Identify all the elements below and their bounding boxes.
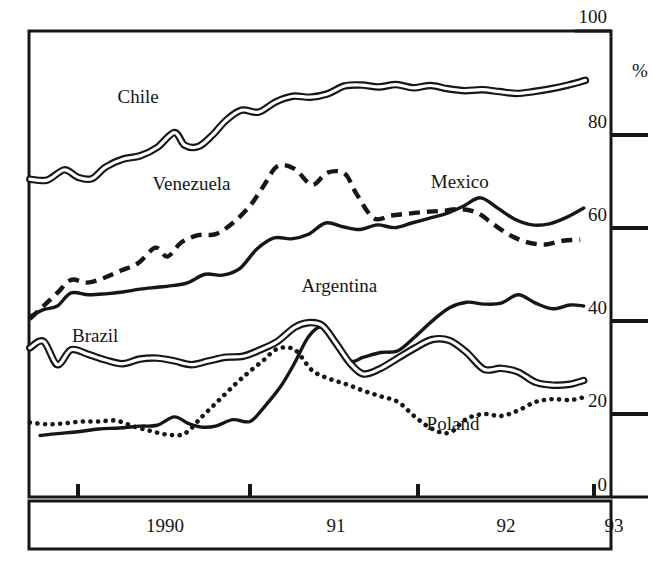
series-label-argentina: Argentina	[302, 275, 378, 296]
y-axis-label-60: 60	[588, 204, 607, 225]
y-axis-label-100: 100	[579, 6, 608, 27]
y-axis-label-20: 20	[588, 390, 607, 411]
line-chart-figure: 100 % 80 60 40 20 0 1990 91 92 93 ChileV…	[0, 0, 666, 575]
y-axis-label-40: 40	[588, 297, 607, 318]
x-axis-label-92: 92	[497, 515, 516, 536]
x-axis-label-93: 93	[605, 515, 624, 536]
chart-container: 100 % 80 60 40 20 0 1990 91 92 93 ChileV…	[0, 0, 666, 575]
y-axis-label-0: 0	[598, 474, 608, 495]
series-label-mexico: Mexico	[431, 171, 489, 192]
x-axis-label-91: 91	[327, 515, 346, 536]
y-axis-unit-percent: %	[632, 60, 648, 81]
y-axis-label-80: 80	[588, 111, 607, 132]
x-axis-label-1990: 1990	[146, 515, 184, 536]
series-label-venezuela: Venezuela	[152, 173, 231, 194]
series-label-poland: Poland	[427, 413, 480, 434]
series-label-brazil: Brazil	[72, 325, 118, 346]
series-label-chile: Chile	[118, 86, 159, 107]
